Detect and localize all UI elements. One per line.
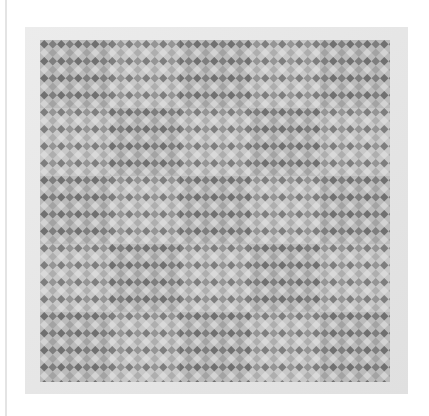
quilt-photo (0, 0, 429, 416)
